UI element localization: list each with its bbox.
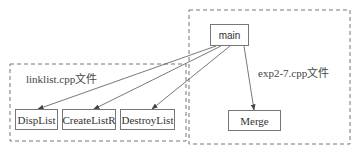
node-destroylist[interactable]: DestroyList xyxy=(120,109,175,130)
edge-main-destroylist xyxy=(152,46,230,109)
node-createlistr[interactable]: CreateListR xyxy=(62,109,116,130)
node-main[interactable]: main xyxy=(210,24,249,46)
edge-main-merge xyxy=(244,46,254,110)
node-merge[interactable]: Merge xyxy=(228,110,281,131)
right-group-label: exp2-7.cpp文件 xyxy=(258,64,329,80)
edge-main-createlistr xyxy=(94,46,221,109)
left-group-label: linklist.cpp文件 xyxy=(26,70,97,86)
node-displist[interactable]: DispList xyxy=(15,109,58,130)
